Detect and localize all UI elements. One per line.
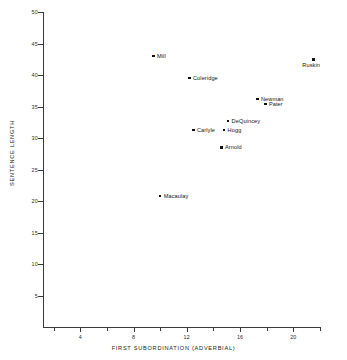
data-point-label: Macaulay xyxy=(164,193,189,199)
data-point-label: Hogg xyxy=(228,127,242,133)
x-tick xyxy=(240,327,241,332)
y-tick-label: 30 xyxy=(32,135,38,141)
y-tick-label: 15 xyxy=(32,230,38,236)
x-minor-tick xyxy=(54,327,55,331)
data-point-marker xyxy=(159,195,162,198)
data-point-label: Pater xyxy=(269,101,283,107)
y-tick-label: 50 xyxy=(32,9,38,15)
data-point-marker xyxy=(312,58,315,61)
data-point-label: Coleridge xyxy=(193,75,218,81)
data-point-label: Ruskin xyxy=(302,62,320,68)
x-tick-label: 20 xyxy=(283,334,303,340)
y-tick xyxy=(38,233,43,234)
y-tick xyxy=(38,75,43,76)
scatter-plot-figure: 5101520253035404550 48121620 MillColerid… xyxy=(0,0,347,360)
x-minor-tick xyxy=(107,327,108,331)
x-tick xyxy=(293,327,294,332)
x-axis-line xyxy=(43,327,320,328)
y-tick xyxy=(38,12,43,13)
data-point-label: Mill xyxy=(157,53,166,59)
y-tick xyxy=(38,170,43,171)
x-tick xyxy=(187,327,188,332)
data-point-marker xyxy=(256,98,259,101)
y-tick-label: 25 xyxy=(32,167,38,173)
y-tick xyxy=(38,107,43,108)
y-tick-label: 20 xyxy=(32,198,38,204)
x-axis-title: FIRST SUBORDINATION (ADVERBIAL) xyxy=(0,345,347,351)
y-tick-label: 10 xyxy=(32,261,38,267)
x-minor-tick xyxy=(213,327,214,331)
data-point-marker xyxy=(264,103,267,106)
x-tick-label: 8 xyxy=(124,334,144,340)
data-point-label: Carlyle xyxy=(197,127,215,133)
x-tick-label: 4 xyxy=(70,334,90,340)
x-minor-tick xyxy=(267,327,268,331)
data-point-marker xyxy=(227,120,230,123)
data-point-label: DeQuincey xyxy=(232,118,261,124)
y-tick xyxy=(38,44,43,45)
y-tick xyxy=(38,138,43,139)
y-tick xyxy=(38,264,43,265)
data-point-label: Arnold xyxy=(225,144,242,150)
x-tick xyxy=(134,327,135,332)
y-axis-line xyxy=(43,12,44,327)
y-tick xyxy=(38,296,43,297)
y-tick-label: 40 xyxy=(32,72,38,78)
x-minor-tick xyxy=(160,327,161,331)
y-tick-label: 45 xyxy=(32,41,38,47)
data-point-marker xyxy=(188,77,191,80)
x-minor-tick xyxy=(320,327,321,331)
x-tick-label: 12 xyxy=(177,334,197,340)
y-tick-label: 5 xyxy=(35,293,38,299)
data-point-marker xyxy=(192,129,195,132)
data-point-marker xyxy=(152,55,155,58)
x-tick xyxy=(80,327,81,332)
y-axis-title: SENTENCE LENGTH xyxy=(9,103,15,203)
y-tick xyxy=(38,201,43,202)
y-tick-label: 35 xyxy=(32,104,38,110)
x-tick-label: 16 xyxy=(230,334,250,340)
data-point-marker xyxy=(220,146,223,149)
plot-area: 5101520253035404550 48121620 MillColerid… xyxy=(0,0,347,360)
data-point-marker xyxy=(223,129,226,132)
